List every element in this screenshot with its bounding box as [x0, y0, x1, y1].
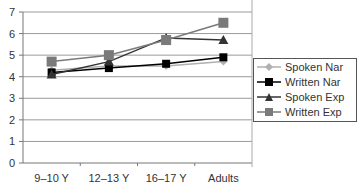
legend-label: Spoken Exp — [285, 91, 344, 103]
data-point — [161, 35, 171, 45]
y-tick-label: 6 — [9, 28, 15, 40]
y-tick-label: 1 — [9, 135, 15, 147]
y-tick-label: 2 — [9, 114, 15, 126]
gridlines — [23, 12, 252, 141]
y-tick-label: 5 — [9, 49, 15, 61]
legend-item-spoken-exp: Spoken Exp — [257, 90, 344, 104]
x-tick-label: 16–17 Y — [146, 172, 187, 184]
y-tick-label: 3 — [9, 92, 15, 104]
square-marker-icon — [257, 106, 281, 118]
data-series — [47, 18, 229, 79]
legend-label: Written Nar — [285, 76, 340, 88]
data-point — [162, 60, 170, 68]
legend-item-written-exp: Written Exp — [257, 105, 342, 119]
legend-label: Written Exp — [285, 106, 342, 118]
series-written-nar — [48, 53, 228, 76]
data-point — [47, 57, 57, 67]
y-tick-label: 7 — [9, 6, 15, 18]
square-marker-icon — [257, 76, 281, 88]
data-point — [218, 18, 228, 28]
x-tick-label: Adults — [208, 172, 239, 184]
legend-item-written-nar: Written Nar — [257, 75, 340, 89]
x-tick-label: 12–13 Y — [88, 172, 129, 184]
legend: Spoken Nar Written Nar Spoken Exp Writte… — [253, 58, 357, 122]
y-axis-ticks: 01234567 — [9, 6, 23, 169]
y-tick-label: 4 — [9, 71, 15, 83]
data-point — [219, 53, 227, 61]
y-tick-label: 0 — [9, 157, 15, 169]
x-axis-ticks: 9–10 Y12–13 Y16–17 YAdults — [34, 163, 239, 184]
data-point — [104, 50, 114, 60]
x-tick-label: 9–10 Y — [34, 172, 69, 184]
triangle-marker-icon — [257, 91, 281, 103]
series-spoken-exp — [47, 33, 229, 79]
legend-label: Spoken Nar — [285, 61, 343, 73]
legend-item-spoken-nar: Spoken Nar — [257, 60, 343, 74]
diamond-marker-icon — [257, 61, 281, 73]
